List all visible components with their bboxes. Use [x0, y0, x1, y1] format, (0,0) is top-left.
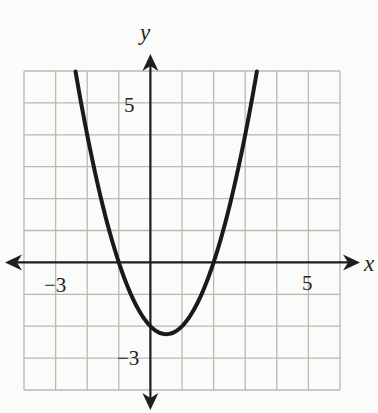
y-axis-label: y [138, 20, 151, 45]
y-tick-label-5: 5 [124, 93, 135, 117]
y-tick-label-neg3: −3 [117, 346, 139, 370]
x-tick-label-neg3: −3 [44, 273, 66, 297]
x-axis-label: x [363, 251, 375, 276]
grid [24, 71, 340, 390]
graph-canvas: x y −3 5 5 −3 [0, 0, 378, 413]
x-tick-label-5: 5 [302, 271, 313, 295]
y-axis [142, 54, 158, 410]
